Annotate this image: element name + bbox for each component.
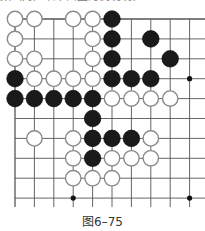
star-point xyxy=(71,196,76,201)
white-stone xyxy=(66,71,81,86)
white-stone xyxy=(27,11,42,26)
white-stone xyxy=(66,131,81,146)
black-stone xyxy=(104,11,121,28)
white-stone xyxy=(124,151,139,166)
white-stone xyxy=(27,71,42,86)
white-stone xyxy=(85,51,100,66)
black-stone xyxy=(65,90,82,107)
white-stone xyxy=(143,91,158,106)
white-stone xyxy=(85,171,100,186)
black-stone xyxy=(104,51,121,68)
go-board xyxy=(0,0,205,212)
black-stone xyxy=(84,150,101,167)
white-stone xyxy=(104,171,119,186)
black-stone xyxy=(143,31,160,48)
white-stone xyxy=(7,11,22,26)
white-stone xyxy=(143,131,158,146)
white-stone xyxy=(85,11,100,26)
black-stone xyxy=(84,130,101,147)
black-stone xyxy=(123,130,140,147)
white-stone xyxy=(104,151,119,166)
white-stone xyxy=(66,11,81,26)
black-stone xyxy=(143,70,160,87)
black-stone xyxy=(84,90,101,107)
black-stone xyxy=(46,90,63,107)
white-stone xyxy=(27,131,42,146)
white-stone xyxy=(7,51,22,66)
white-stone xyxy=(85,71,100,86)
black-stone xyxy=(84,110,101,127)
black-stone xyxy=(162,51,179,68)
white-stone xyxy=(124,91,139,106)
white-stone xyxy=(143,151,158,166)
white-stone xyxy=(46,71,61,86)
black-stone xyxy=(7,90,24,107)
figure-caption: 图6–75 xyxy=(0,212,205,229)
black-stone xyxy=(26,90,43,107)
black-stone xyxy=(104,70,121,87)
white-stone xyxy=(163,91,178,106)
black-stone xyxy=(104,31,121,48)
star-point xyxy=(187,76,192,81)
white-stone xyxy=(27,51,42,66)
white-stone xyxy=(66,171,81,186)
white-stone xyxy=(104,91,119,106)
black-stone xyxy=(104,130,121,147)
black-stone xyxy=(7,70,24,87)
stones xyxy=(7,11,179,186)
black-stone xyxy=(123,70,140,87)
white-stone xyxy=(66,151,81,166)
star-point xyxy=(187,196,192,201)
white-stone xyxy=(7,31,22,46)
white-stone xyxy=(85,31,100,46)
